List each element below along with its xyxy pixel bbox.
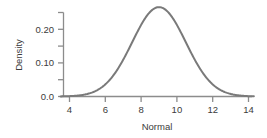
x-tick-label-12: 12 [207,104,218,115]
density-chart-figure: 0.20 0.10 0.0 Density 4 6 8 10 12 14 Nor… [0,0,267,138]
x-axis-title: Normal [142,121,173,132]
y-tick-label-0.0: 0.0 [41,91,54,102]
x-tick-label-6: 6 [103,104,108,115]
x-axis-ticks [70,97,249,103]
normal-density-plot: 0.20 0.10 0.0 Density 4 6 8 10 12 14 Nor… [0,0,267,138]
normal-density-curve [61,7,254,96]
y-tick-label-0.20: 0.20 [36,24,55,35]
y-tick-label-0.10: 0.10 [36,57,55,68]
x-tick-label-8: 8 [138,104,143,115]
y-axis-title: Density [13,39,24,71]
x-tick-label-4: 4 [67,104,72,115]
y-axis-ticks [58,13,64,97]
x-tick-label-14: 14 [243,104,254,115]
x-tick-label-10: 10 [172,104,183,115]
